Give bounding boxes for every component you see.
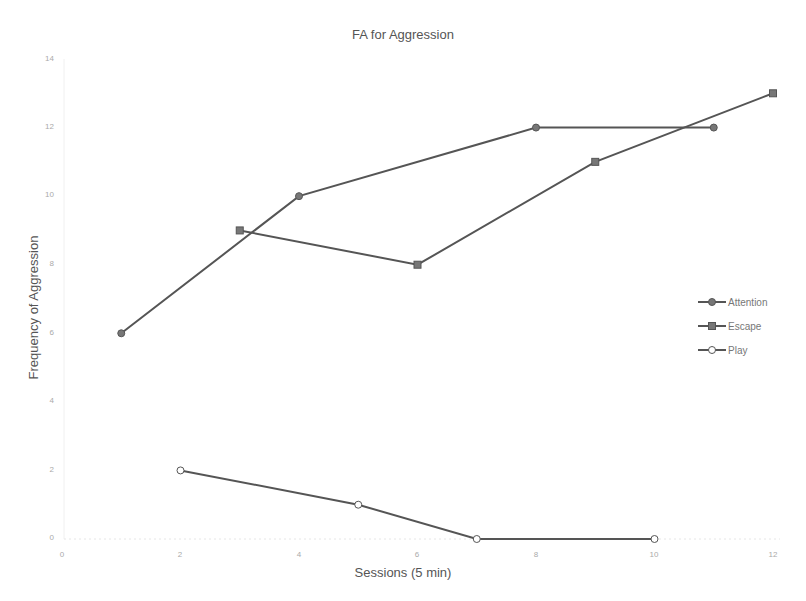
data-point	[296, 193, 303, 200]
data-point	[770, 90, 777, 97]
open-circle-marker-icon	[698, 345, 726, 355]
legend-item-escape: Escape	[698, 314, 767, 338]
data-point	[473, 536, 480, 543]
data-point	[651, 536, 658, 543]
legend-item-attention: Attention	[698, 290, 767, 314]
data-point	[236, 227, 243, 234]
legend-label: Attention	[728, 297, 767, 308]
circle-marker-icon	[698, 297, 726, 307]
series-play	[177, 467, 658, 543]
data-point	[710, 124, 717, 131]
legend-item-play: Play	[698, 338, 767, 362]
data-point	[177, 467, 184, 474]
data-point	[355, 501, 362, 508]
data-point	[533, 124, 540, 131]
series-layer	[118, 90, 777, 543]
data-point	[414, 261, 421, 268]
legend: Attention Escape Play	[698, 290, 767, 362]
legend-label: Play	[728, 345, 747, 356]
series-attention	[118, 124, 718, 337]
data-point	[592, 158, 599, 165]
plot-area	[0, 0, 806, 601]
series-escape	[236, 90, 776, 268]
data-point	[118, 330, 125, 337]
legend-label: Escape	[728, 321, 761, 332]
square-marker-icon	[698, 321, 726, 331]
